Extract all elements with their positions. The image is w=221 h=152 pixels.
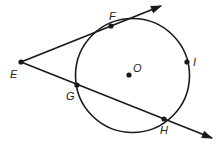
point-e [18,59,23,64]
label-h: H [160,124,168,136]
label-g: G [66,90,75,102]
label-o: O [133,62,142,74]
circle-o [76,19,190,133]
tangent-ray-ef [21,6,161,62]
point-i [184,59,189,64]
label-i: I [193,56,196,68]
point-h [161,116,166,121]
point-f [108,23,113,28]
point-g [74,82,79,87]
label-e: E [10,68,18,80]
point-o [126,72,131,77]
geometry-diagram: E F G H I O [0,0,221,152]
